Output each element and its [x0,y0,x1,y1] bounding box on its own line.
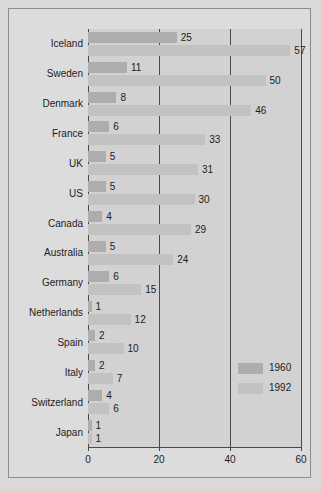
bar-row: 633France [88,119,301,149]
category-label-canada: Canada [48,218,83,229]
bar-1960 [88,62,127,73]
bar-value-1960: 4 [106,390,112,401]
bar-value-1992: 7 [117,373,123,384]
bar-value-1992: 24 [177,254,188,265]
bar-value-1992: 57 [294,45,305,56]
category-label-france: France [52,128,83,139]
bar-value-1992: 10 [128,343,139,354]
bar-1960 [88,390,102,401]
bar-row: 112Netherlands [88,298,301,328]
bar-value-1960: 6 [113,121,119,132]
x-axis-line [88,447,301,448]
bar-value-1960: 4 [106,211,112,222]
gridline-60 [301,29,302,447]
figure-frame: 2557Iceland1150Sweden846Denmark633France… [8,8,311,478]
bar-row: 210Spain [88,328,301,358]
x-tick-label-60: 60 [295,454,306,465]
bar-value-1960: 2 [99,360,105,371]
category-label-denmark: Denmark [42,98,83,109]
chart-figure: 2557Iceland1150Sweden846Denmark633France… [0,0,321,491]
bar-row: 524Australia [88,238,301,268]
bar-1960 [88,211,102,222]
legend-swatch-1992 [238,383,263,394]
bar-1992 [88,75,266,86]
bar-1960 [88,301,92,312]
category-label-switzerland: Switzerland [31,397,83,408]
bar-value-1960: 8 [120,92,126,103]
bar-value-1992: 29 [195,224,206,235]
bar-1992 [88,105,251,116]
category-label-netherlands: Netherlands [29,307,83,318]
bar-1960 [88,420,92,431]
category-label-australia: Australia [44,247,83,258]
bar-value-1992: 6 [113,403,119,414]
bar-row: 531UK [88,148,301,178]
bar-value-1960: 1 [96,301,102,312]
bar-value-1960: 5 [110,151,116,162]
bar-1992 [88,343,124,354]
bar-1992 [88,224,191,235]
bar-1992 [88,433,92,444]
bar-1992 [88,45,290,56]
bar-1960 [88,181,106,192]
bar-row: 429Canada [88,208,301,238]
x-tick-label-20: 20 [153,454,164,465]
bar-value-1992: 33 [209,134,220,145]
legend-label-1960: 1960 [269,361,291,375]
bar-1992 [88,254,173,265]
bar-value-1992: 30 [199,194,210,205]
bar-1960 [88,32,177,43]
x-tick-40 [230,447,231,451]
bar-value-1992: 50 [270,75,281,86]
legend-swatch-1960 [238,363,263,374]
bar-value-1960: 5 [110,241,116,252]
bar-value-1960: 2 [99,330,105,341]
x-tick-60 [301,447,302,451]
x-tick-label-0: 0 [85,454,91,465]
bar-1960 [88,151,106,162]
category-label-sweden: Sweden [47,68,83,79]
bar-value-1960: 6 [113,271,119,282]
bar-value-1992: 31 [202,164,213,175]
bar-row: 615Germany [88,268,301,298]
category-label-iceland: Iceland [51,38,83,49]
bar-value-1960: 5 [110,181,116,192]
bar-1960 [88,330,95,341]
bar-1992 [88,284,141,295]
bar-1992 [88,134,205,145]
bar-row: 11Japan [88,417,301,447]
bar-1992 [88,314,131,325]
bar-1992 [88,403,109,414]
bar-row: 846Denmark [88,89,301,119]
bar-1960 [88,271,109,282]
bar-value-1960: 1 [96,420,102,431]
category-label-spain: Spain [57,337,83,348]
category-label-italy: Italy [65,367,83,378]
bar-row: 1150Sweden [88,59,301,89]
bar-row: 2557Iceland [88,29,301,59]
legend-label-1992: 1992 [269,381,291,395]
bar-1992 [88,164,198,175]
category-label-japan: Japan [56,427,83,438]
bar-value-1960: 11 [131,62,141,73]
category-label-us: US [69,188,83,199]
bar-1960 [88,92,116,103]
bar-1960 [88,360,95,371]
bar-value-1992: 12 [135,314,146,325]
x-tick-0 [88,447,89,451]
bar-value-1992: 46 [255,105,266,116]
bar-row: 530US [88,178,301,208]
bar-value-1992: 1 [96,433,102,444]
bar-1960 [88,241,106,252]
category-label-germany: Germany [42,277,83,288]
bar-value-1992: 15 [145,284,156,295]
bar-value-1960: 25 [181,32,192,43]
category-label-uk: UK [69,158,83,169]
bar-1992 [88,373,113,384]
x-tick-20 [159,447,160,451]
bar-1960 [88,121,109,132]
x-tick-label-40: 40 [224,454,235,465]
bar-1992 [88,194,195,205]
